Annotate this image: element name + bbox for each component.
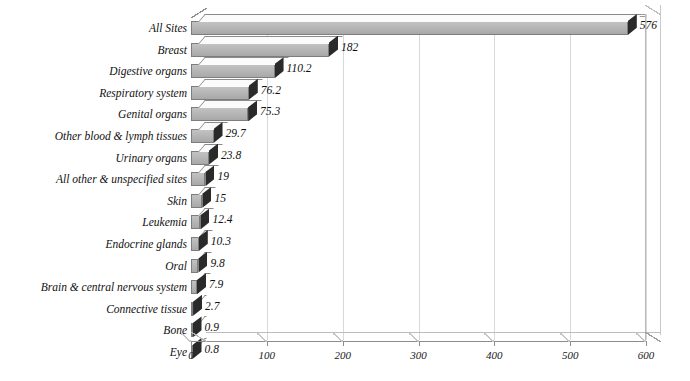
bar-front-face	[191, 64, 275, 78]
bar-row: Oral9.8	[0, 252, 690, 274]
category-label: Genital organs	[0, 108, 187, 120]
bar-row: Connective tissue2.7	[0, 295, 690, 317]
bar-row: Respiratory system76.2	[0, 79, 690, 101]
x-tick-100	[267, 341, 268, 346]
bar-front-face	[191, 172, 205, 186]
bar-row: Brain & central nervous system7.9	[0, 273, 690, 295]
category-label: Bone	[0, 324, 187, 336]
x-tick-600	[646, 341, 647, 346]
bar-value-label: 15	[214, 192, 226, 204]
bar-front-face	[191, 259, 198, 273]
category-label: Endocrine glands	[0, 238, 187, 250]
bar-row: Skin15	[0, 187, 690, 209]
category-label: All other & unspecified sites	[0, 173, 187, 185]
category-label: Digestive organs	[0, 65, 187, 77]
bar-front-face	[191, 86, 249, 100]
bar-chart: All Sites576Breast182Digestive organs110…	[0, 0, 690, 381]
x-tick-skew-600	[636, 333, 646, 342]
bar-row: All other & unspecified sites19	[0, 165, 690, 187]
x-tick-label-500: 500	[550, 349, 590, 361]
x-tick-200	[343, 341, 344, 346]
bar-value-label: 10.3	[211, 235, 231, 247]
bar-value-label: 2.7	[205, 300, 219, 312]
bar-row: Endocrine glands10.3	[0, 230, 690, 252]
category-label: Skin	[0, 195, 187, 207]
bar-front-face	[191, 21, 628, 35]
category-label: Oral	[0, 260, 187, 272]
x-tick-500	[570, 341, 571, 346]
bar-value-label: 7.9	[209, 278, 223, 290]
x-tick-label-100: 100	[247, 349, 287, 361]
x-tick-skew-500	[560, 333, 570, 342]
bar-front-face	[191, 280, 197, 294]
floor-right-skew	[645, 332, 661, 342]
category-label: All Sites	[0, 22, 187, 34]
x-tick-skew-400	[484, 333, 494, 342]
bar-front-face	[191, 129, 214, 143]
x-tick-label-0: 0	[171, 349, 211, 361]
category-label: Eye	[0, 346, 187, 358]
bar-row: Bone0.9	[0, 316, 690, 338]
bar-front-face	[191, 107, 248, 121]
category-label: Leukemia	[0, 216, 187, 228]
bar-value-label: 9.8	[210, 257, 224, 269]
bar-front-face	[191, 237, 199, 251]
bar-front-face	[191, 151, 209, 165]
x-tick-label-200: 200	[323, 349, 363, 361]
x-tick-label-400: 400	[474, 349, 514, 361]
bar-value-label: 19	[217, 170, 229, 182]
category-label: Respiratory system	[0, 87, 187, 99]
bar-value-label: 12.4	[212, 213, 232, 225]
bar-row: Other blood & lymph tissues29.7	[0, 122, 690, 144]
floor-left-skew	[191, 332, 207, 342]
x-tick-400	[494, 341, 495, 346]
bar-row: Leukemia12.4	[0, 208, 690, 230]
bar-end-cap	[193, 295, 202, 316]
x-tick-skew-300	[409, 333, 419, 342]
bar-value-label: 182	[341, 41, 358, 53]
x-tick-skew-0	[181, 333, 191, 342]
bar-row: Urinary organs23.8	[0, 144, 690, 166]
bar-top-face	[198, 122, 227, 130]
category-label: Urinary organs	[0, 152, 187, 164]
category-label: Connective tissue	[0, 303, 187, 315]
bar-row: All Sites576	[0, 14, 690, 36]
x-tick-skew-200	[333, 333, 343, 342]
bar-value-label: 23.8	[221, 149, 241, 161]
bar-row: Breast182	[0, 36, 690, 58]
bar-value-label: 29.7	[226, 127, 246, 139]
category-label: Other blood & lymph tissues	[0, 130, 187, 142]
bar-value-label: 576	[640, 19, 657, 31]
bar-front-face	[191, 194, 202, 208]
bar-top-face	[198, 14, 642, 22]
bar-front-face	[191, 215, 200, 229]
category-label: Breast	[0, 44, 187, 56]
bar-value-label: 76.2	[261, 84, 281, 96]
x-tick-label-600: 600	[626, 349, 666, 361]
category-label: Brain & central nervous system	[0, 281, 187, 293]
x-tick-skew-100	[257, 333, 267, 342]
bar-front-face	[191, 43, 329, 57]
x-tick-0	[191, 341, 192, 346]
bar-value-label: 110.2	[287, 62, 312, 74]
bar-row: Digestive organs110.2	[0, 57, 690, 79]
bar-value-label: 75.3	[260, 105, 280, 117]
bar-front-face	[191, 302, 193, 316]
bar-top-face	[198, 36, 343, 44]
bar-row: Genital organs75.3	[0, 100, 690, 122]
x-tick-300	[419, 341, 420, 346]
x-tick-label-300: 300	[399, 349, 439, 361]
x-axis-back-line	[206, 332, 661, 333]
